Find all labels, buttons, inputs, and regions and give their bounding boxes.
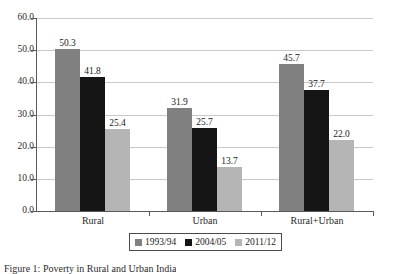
x-axis-separator-tick [373, 211, 374, 216]
y-tick-label: 30.0 [0, 110, 34, 119]
bar-group-rural: 50.3 41.8 25.4 [55, 18, 131, 211]
y-tick-label: 50.0 [0, 45, 34, 54]
legend-swatch-icon [185, 239, 192, 246]
bar-rural-2011-12[interactable] [105, 129, 130, 211]
legend-label: 2004/05 [195, 238, 226, 247]
bar-value-label: 13.7 [215, 156, 244, 166]
y-tick-label: 20.0 [0, 142, 34, 151]
legend-swatch-icon [235, 239, 242, 246]
y-tick-label: 40.0 [0, 77, 34, 86]
chart-legend: 1993/94 2004/05 2011/12 [129, 233, 282, 251]
x-category-label-rural-urban: Rural+Urban [277, 215, 357, 226]
bar-rural-1993-94[interactable] [55, 49, 80, 211]
legend-item-2004-05[interactable]: 2004/05 [185, 238, 226, 247]
y-tick-label: 10.0 [0, 174, 34, 183]
bar-urban-2011-12[interactable] [217, 167, 242, 211]
y-tick-label: 0.0 [0, 206, 34, 215]
legend-item-2011-12[interactable]: 2011/12 [235, 238, 276, 247]
y-tick-label: 60.0 [0, 13, 34, 22]
bar-value-label: 31.9 [165, 97, 194, 107]
bar-value-label: 41.8 [78, 66, 107, 76]
figure-caption: Figure 1: Poverty in Rural and Urban Ind… [4, 263, 176, 274]
bar-value-label: 45.7 [277, 53, 306, 63]
bar-value-label: 25.7 [190, 117, 219, 127]
x-category-label-urban: Urban [165, 215, 245, 226]
legend-item-1993-94[interactable]: 1993/94 [135, 238, 176, 247]
bar-group-rural-urban: 45.7 37.7 22.0 [279, 18, 355, 211]
legend-label: 1993/94 [145, 238, 176, 247]
bar-rural-2004-05[interactable] [80, 77, 105, 211]
bar-value-label: 22.0 [327, 129, 356, 139]
bar-value-label: 25.4 [103, 118, 132, 128]
bar-group-urban: 31.9 25.7 13.7 [167, 18, 243, 211]
bar-rural-urban-1993-94[interactable] [279, 64, 304, 211]
x-axis-line [37, 211, 374, 212]
legend-label: 2011/12 [245, 238, 276, 247]
bar-rural-urban-2011-12[interactable] [329, 140, 354, 211]
x-axis-separator-tick [261, 211, 262, 216]
x-category-label-rural: Rural [53, 215, 133, 226]
legend-swatch-icon [135, 239, 142, 246]
bar-urban-2004-05[interactable] [192, 128, 217, 211]
bar-value-label: 50.3 [53, 38, 82, 48]
bar-rural-urban-2004-05[interactable] [304, 90, 329, 211]
bar-urban-1993-94[interactable] [167, 108, 192, 211]
x-axis-separator-tick [149, 211, 150, 216]
plot-area: 50.3 41.8 25.4 31.9 25.7 13.7 45.7 37.7 … [37, 18, 373, 211]
bar-value-label: 37.7 [302, 79, 331, 89]
